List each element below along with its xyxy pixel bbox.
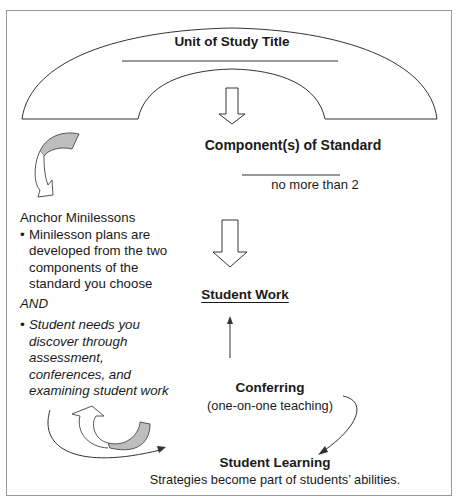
ribbon-arrow-down-icon [40, 133, 79, 156]
unit-title-label: Unit of Study Title [0, 34, 464, 49]
anchor-minilessons-heading: Anchor Minilessons [20, 210, 170, 227]
components-label: Component(s) of Standard [150, 137, 436, 153]
anchor-list: Minilesson plans are developed from the … [20, 227, 170, 293]
conferring-sublabel: (one-on-one teaching) [195, 398, 345, 413]
student-learning-label: Student Learning [150, 455, 400, 470]
anchor-minilessons-block: Anchor Minilessons Minilesson plans are … [20, 210, 170, 400]
diagram-canvas: Unit of Study Title Component(s) of Stan… [0, 0, 464, 504]
components-note: no more than 2 [240, 177, 390, 192]
conferring-label: Conferring [200, 380, 340, 395]
arrowhead-icon [157, 446, 166, 453]
ribbon-arrow-loop-body [72, 406, 108, 448]
arrow-down-icon [213, 220, 247, 267]
anchor-connector: AND [20, 296, 170, 313]
anchor-bullet-2: Student needs you discover through asses… [20, 317, 170, 400]
arrow-down-icon [219, 88, 245, 124]
arrowhead-icon [318, 446, 328, 455]
anchor-bullet-1: Minilesson plans are developed from the … [20, 227, 170, 293]
student-learning-sublabel: Strategies become part of students’ abil… [100, 472, 450, 487]
arrow-up-icon [227, 316, 233, 324]
ribbon-arrow-down-body [35, 151, 53, 197]
ribbon-arrow-loop-icon [108, 422, 150, 450]
anchor-list-2: Student needs you discover through asses… [20, 317, 170, 400]
student-work-label: Student Work [200, 287, 290, 302]
